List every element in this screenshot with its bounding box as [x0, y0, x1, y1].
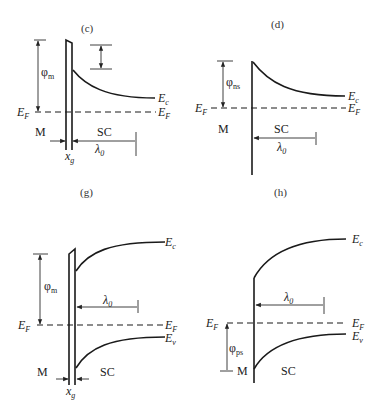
- panel-c-label: (c): [81, 22, 94, 35]
- conduction-band-curve: [73, 70, 155, 98]
- panel-d: (d) φns EF Ec EF M SC λ0: [194, 18, 360, 175]
- panel-d-label: (d): [271, 18, 284, 31]
- panel-g: (g) φm λ0 EF Ec EF Ev M SC xg: [17, 186, 177, 400]
- semiconductor-label: SC: [97, 125, 112, 139]
- gap-label: xg: [65, 384, 75, 400]
- phi-ns-label: φns: [226, 75, 240, 91]
- ec-label: Ec: [351, 232, 363, 248]
- ec-label: Ec: [164, 235, 176, 251]
- oxide-barrier: [66, 40, 72, 150]
- lambda-label: λ0: [94, 142, 104, 158]
- panel-h: (h) λ0 φps EF Ec EF Ev M SC: [205, 186, 364, 383]
- semiconductor-label: SC: [100, 365, 115, 379]
- panel-h-label: (h): [274, 186, 287, 199]
- metal-label: M: [237, 364, 248, 378]
- fermi-left-label: EF: [194, 101, 207, 117]
- gap-label: xg: [64, 149, 74, 165]
- valence-band-curve: [254, 334, 346, 369]
- metal-label: M: [37, 365, 48, 379]
- metal-label: M: [35, 125, 46, 139]
- panel-c: (c) φm EF Ec EF M SC λ0 xg: [16, 22, 170, 165]
- metal-label: M: [218, 122, 229, 136]
- phi-m-label: φm: [44, 279, 58, 295]
- semiconductor-label: SC: [281, 364, 296, 378]
- band-diagram-figure: (c) φm EF Ec EF M SC λ0 xg (d): [0, 0, 380, 411]
- valence-band-curve: [76, 337, 165, 368]
- phi-ps-label: φps: [229, 341, 243, 357]
- fermi-left-label: EF: [205, 316, 218, 332]
- oxide-barrier: [69, 249, 75, 385]
- conduction-band-curve: [253, 62, 345, 96]
- lambda-label: λ0: [102, 293, 112, 309]
- fermi-left-label: EF: [16, 105, 29, 121]
- panel-g-label: (g): [80, 186, 93, 199]
- conduction-band-curve: [254, 239, 346, 278]
- fermi-right-label: EF: [157, 105, 170, 121]
- lambda-label: λ0: [276, 140, 286, 156]
- fermi-left-label: EF: [17, 318, 30, 334]
- conduction-band-curve: [76, 242, 165, 271]
- lambda-label: λ0: [283, 290, 293, 306]
- phi-m-label: φm: [41, 65, 55, 81]
- semiconductor-label: SC: [274, 122, 289, 136]
